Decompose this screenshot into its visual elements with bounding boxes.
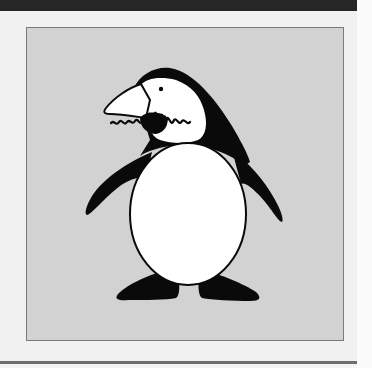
- beak: [104, 84, 150, 118]
- penguin-illustration: [0, 0, 372, 368]
- eye: [159, 87, 163, 91]
- belly: [130, 143, 246, 285]
